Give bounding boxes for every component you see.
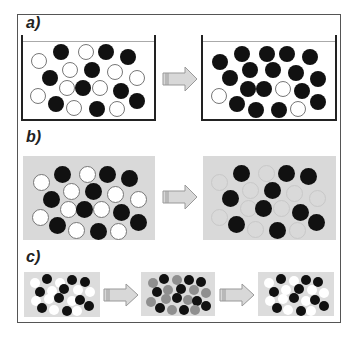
particle-black [229,96,245,112]
particle-black [155,303,165,313]
particle-black [294,83,310,99]
particle-black [301,275,311,285]
particle-white [60,201,77,218]
particle-white [93,201,110,218]
particle-faint [247,221,264,238]
particle-gray [167,305,177,315]
particle-black [265,62,281,78]
right-arrow-icon [220,284,254,306]
particle-black [54,166,71,183]
particle-black [240,81,256,97]
particle-white [211,88,227,104]
panel-b-label: b) [26,128,41,146]
particle-faint [211,209,228,226]
particle-faint [240,200,257,217]
particle-white [110,223,127,240]
particle-plain-white [278,294,288,304]
particle-black [76,201,93,218]
particle-faint [211,174,228,191]
particle-plain-white [307,285,317,295]
particle-white [109,101,125,117]
particle-black [98,44,114,60]
particle-black [279,46,295,62]
particle-black [222,70,238,86]
particle-white [32,209,49,226]
particle-white [130,191,147,208]
particle-black [310,94,326,110]
particle-black [271,102,287,118]
particle-black [179,305,189,315]
particle-black [84,62,100,78]
particle-white [107,186,124,203]
particle-gray [201,288,211,298]
particle-plain-white [44,294,54,304]
particle-black [233,165,250,182]
particle-black [276,274,286,284]
panel-a-label: a) [26,14,40,32]
particle-black [255,200,272,217]
particle-gray [190,305,200,315]
particle-black [113,204,130,221]
panel-c-label: c) [26,248,40,266]
particle-black [289,293,299,303]
particle-black [278,165,295,182]
liquid-surface-line [203,41,335,42]
particle-black [288,65,304,81]
particle-gray [161,294,171,304]
particle-black [130,214,147,231]
particle-black [84,301,94,311]
particle-black [264,182,281,199]
particle-faint [242,182,259,199]
particle-plain-white [306,306,316,316]
particle-black [67,275,77,285]
right-arrow-icon [163,67,197,91]
right-arrow-icon [163,185,197,209]
particle-white [290,101,306,117]
particle-black [90,223,107,240]
particle-black [222,190,239,207]
particle-black [62,306,72,316]
particle-black [269,222,286,239]
particle-black [89,101,105,117]
particle-black [75,80,91,96]
particle-black [42,274,52,284]
particle-white [107,64,123,80]
particle-white [62,62,78,78]
particle-black [99,166,116,183]
particle-white [129,70,145,86]
particle-gray [189,285,199,295]
particle-white [63,183,80,200]
particle-white [66,100,82,116]
particle-white [79,166,96,183]
particle-black [120,49,136,65]
particle-black [248,102,264,118]
particle-black [43,191,60,208]
particle-black [37,303,47,313]
particle-black [259,46,275,62]
particle-black [308,214,325,231]
particle-black [159,274,169,284]
particle-black [272,303,282,313]
particle-faint [286,185,303,202]
particle-black [319,301,329,311]
particle-faint [273,200,290,217]
right-arrow-icon [104,284,138,306]
particle-plain-white [319,288,329,298]
particle-black [212,54,228,70]
liquid-surface-line [23,41,154,42]
particle-faint [289,222,306,239]
particle-white [31,53,47,69]
particle-black [256,81,272,97]
particle-black [184,275,194,285]
particle-white [68,222,85,239]
particle-white [78,44,94,60]
particle-faint [309,190,326,207]
particle-black [48,96,64,112]
particle-black [42,70,58,86]
particle-black [54,293,64,303]
particle-white [30,88,46,104]
particle-black [302,49,318,65]
particle-plain-white [283,305,293,315]
particle-black [49,217,66,234]
particle-black [310,71,326,87]
